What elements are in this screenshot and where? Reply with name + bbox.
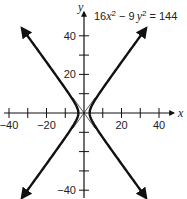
x-axis-label: x — [177, 106, 184, 120]
y-tick-label: 20 — [64, 68, 76, 80]
y-tick-label: 40 — [64, 30, 76, 42]
x-tick-label: −40 — [0, 119, 18, 131]
y-axis-label: y — [77, 0, 84, 14]
x-tick-label: 20 — [115, 119, 127, 131]
hyperbola-plot: −40−2020404020−40 x y 16x2 − 9y2 = 144 — [0, 0, 187, 199]
equation-label: 16x2 − 9y2 = 144 — [94, 9, 177, 23]
x-tick-label: 40 — [153, 119, 165, 131]
y-tick-label: −40 — [57, 184, 76, 196]
x-tick-label: −20 — [37, 119, 56, 131]
